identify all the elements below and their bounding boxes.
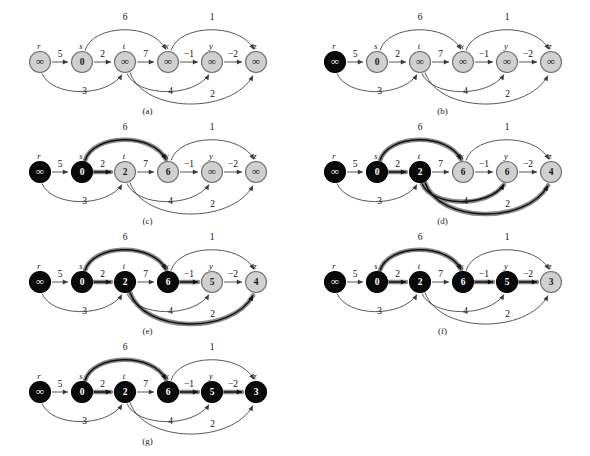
edge-t-z <box>425 73 548 105</box>
edge-arrowhead <box>488 170 493 175</box>
node-label-x: x <box>459 261 464 271</box>
node-value-y: 5 <box>210 387 215 397</box>
node-value-s: 0 <box>80 57 85 67</box>
edge-weight-t-x: 7 <box>143 379 148 389</box>
edge-weight-t-x: 7 <box>438 159 443 169</box>
edge-highlight-s-x <box>380 250 461 271</box>
edge-arrowhead <box>149 170 154 175</box>
node-value-z: ∞ <box>547 55 555 67</box>
edge-s-x <box>380 30 461 51</box>
edge-arrowhead <box>358 170 363 175</box>
edge-weight-x-z: 1 <box>505 232 510 242</box>
edge-weight-x-z: 1 <box>210 342 215 352</box>
edge-weight-y-z: −2 <box>228 159 238 169</box>
node-label-r: r <box>332 41 336 51</box>
node-label-s: s <box>374 41 378 51</box>
node-label-r: r <box>37 151 41 161</box>
edge-weight-y-z: −2 <box>228 49 238 59</box>
edge-s-x <box>85 360 166 381</box>
node-label-r: r <box>37 371 41 381</box>
node-value-y: ∞ <box>503 55 511 67</box>
edge-weight-t-y: 4 <box>463 196 468 206</box>
node-label-r: r <box>37 41 41 51</box>
node-value-y: 6 <box>505 167 510 177</box>
node-value-x: ∞ <box>164 55 172 67</box>
figure-root: 527−1−261342r∞s0t∞x∞y∞z∞(a)527−1−261342r… <box>0 0 590 456</box>
node-label-y: y <box>208 151 213 161</box>
node-value-s: 0 <box>375 167 380 177</box>
node-label-z: z <box>547 41 552 51</box>
edge-weight-x-y: −1 <box>184 379 194 389</box>
edge-s-x <box>85 30 166 51</box>
edge-weight-r-s: 5 <box>353 269 358 279</box>
node-value-x: 6 <box>166 277 171 287</box>
node-value-t: 2 <box>418 277 423 287</box>
panel-f: 527−1−261342r∞s0t2x6y5z3(f) <box>295 230 590 343</box>
edge-arrowhead <box>237 170 242 175</box>
node-value-x: 6 <box>461 277 466 287</box>
edge-highlight-s-x <box>85 250 166 271</box>
node-label-r: r <box>332 261 336 271</box>
edge-highlight-s-x <box>85 360 166 381</box>
node-value-r: ∞ <box>36 275 44 287</box>
edge-weight-r-t: 3 <box>82 416 87 426</box>
edge-weight-r-t: 3 <box>377 86 382 96</box>
edge-arrowhead <box>248 186 253 192</box>
edge-weight-s-t: 2 <box>100 159 105 169</box>
edge-weight-r-s: 5 <box>353 49 358 59</box>
edge-weight-x-y: −1 <box>184 269 194 279</box>
node-label-y: y <box>208 41 213 51</box>
edge-weight-t-y: 4 <box>463 86 468 96</box>
node-label-z: z <box>252 41 257 51</box>
edge-weight-r-s: 5 <box>58 269 63 279</box>
edge-arrowhead <box>358 60 363 65</box>
node-label-y: y <box>208 261 213 271</box>
node-value-t: 2 <box>123 277 128 287</box>
edge-s-x <box>380 250 461 271</box>
panel-caption-g: (g) <box>0 436 295 446</box>
edge-weight-r-s: 5 <box>58 49 63 59</box>
edge-weight-t-z: 2 <box>210 89 215 99</box>
node-value-t: ∞ <box>121 55 129 67</box>
edge-weight-s-x: 6 <box>418 12 423 22</box>
node-value-r: ∞ <box>331 165 339 177</box>
edge-weight-r-t: 3 <box>82 196 87 206</box>
node-value-y: ∞ <box>208 55 216 67</box>
node-value-t: 2 <box>123 387 128 397</box>
edge-weight-r-t: 3 <box>82 306 87 316</box>
edge-weight-t-x: 7 <box>438 49 443 59</box>
edge-arrowhead <box>193 170 198 175</box>
edge-arrowhead <box>237 280 242 285</box>
edge-t-z <box>130 293 253 325</box>
node-label-t: t <box>418 41 421 51</box>
edge-t-z <box>130 183 253 215</box>
node-label-y: y <box>503 41 508 51</box>
edge-weight-x-y: −1 <box>479 49 489 59</box>
edge-arrowhead <box>193 60 198 65</box>
node-value-x: 6 <box>166 167 171 177</box>
edge-weight-r-t: 3 <box>377 306 382 316</box>
node-label-s: s <box>79 261 83 271</box>
panel-caption-d: (d) <box>295 216 590 226</box>
panel-g: 527−1−261342r∞s0t2x6y5z3(g) <box>0 340 295 453</box>
edge-weight-x-y: −1 <box>184 159 194 169</box>
node-label-r: r <box>332 151 336 161</box>
edge-weight-r-s: 5 <box>58 379 63 389</box>
edge-arrowhead <box>248 406 253 412</box>
node-label-t: t <box>123 261 126 271</box>
panel-caption-a: (a) <box>0 106 295 116</box>
edge-arrowhead <box>149 390 154 395</box>
node-value-s: 0 <box>80 167 85 177</box>
panel-e: 527−1−261342r∞s0t2x6y5z4(e) <box>0 230 295 343</box>
edge-weight-x-z: 1 <box>505 12 510 22</box>
edge-weight-x-y: −1 <box>479 159 489 169</box>
edge-weight-r-t: 3 <box>377 196 382 206</box>
node-label-s: s <box>79 151 83 161</box>
node-value-s: 0 <box>80 277 85 287</box>
node-label-z: z <box>252 371 257 381</box>
edge-weight-t-y: 4 <box>168 196 173 206</box>
node-value-x: 6 <box>461 167 466 177</box>
node-value-z: 4 <box>254 277 259 287</box>
panel-c: 527−1−261342r∞s0t2x6y∞z∞(c) <box>0 120 295 233</box>
panel-caption-e: (e) <box>0 326 295 336</box>
